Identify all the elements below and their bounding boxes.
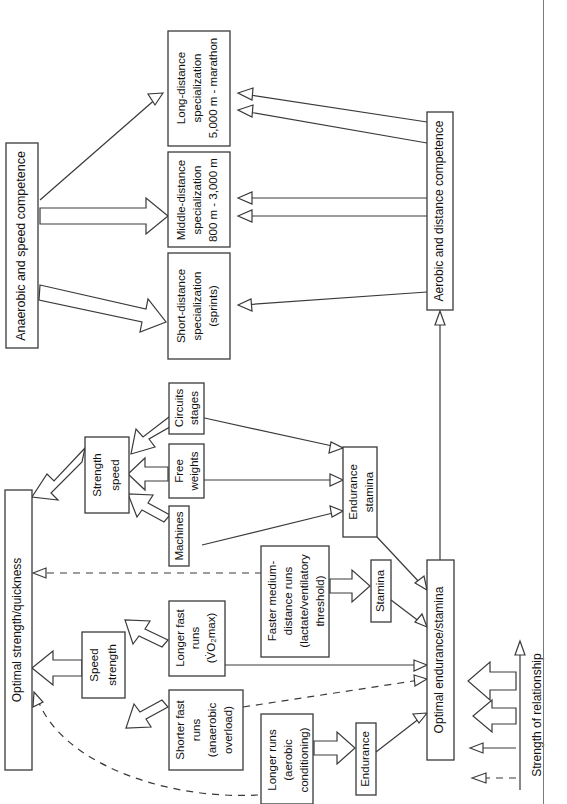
speed-strength-line1: Speed	[88, 648, 100, 681]
edge-longer-runs-to-endurance	[314, 732, 355, 764]
edge-anaerobic-to-middle-distance	[40, 198, 168, 234]
short-distance-line3: (sprints)	[207, 285, 219, 327]
node-free-weights[interactable]: Free weights	[169, 444, 204, 498]
machines-label: Machines	[173, 511, 185, 560]
legend-item-very-strong	[468, 662, 516, 700]
node-machines[interactable]: Machines	[169, 506, 189, 566]
edge-machines-to-endurance-stamina	[202, 506, 343, 545]
circuits-line2: stages	[188, 391, 200, 425]
legend-item-strong	[473, 700, 516, 732]
node-aerobic-distance-competence-label: Aerobic and distance competence	[432, 120, 446, 301]
middle-distance-line2: specialization	[191, 165, 203, 234]
node-optimal-endurance-stamina-label: Optimal endurance/stamina	[432, 586, 446, 733]
edge-shorter-fast-runs-to-optimal-endurance-dashed	[243, 675, 427, 707]
edge-free-weights-to-endurance-stamina	[202, 474, 343, 486]
faster-medium-line3: (lactate/ventilatory	[298, 554, 310, 648]
diagram-canvas: Anaerobic and speed competence Aerobic a…	[0, 0, 567, 804]
shorter-fast-runs-line3: (anaerobic	[206, 703, 218, 758]
shorter-fast-runs-line2: runs	[190, 719, 202, 742]
legend-item-moderate	[470, 743, 516, 753]
node-stamina[interactable]: Stamina	[371, 560, 391, 622]
edge-speed-strength-to-optimal-strength	[32, 651, 82, 685]
faster-medium-line4: threshold)	[314, 575, 326, 626]
node-strength-speed[interactable]: Strength speed	[85, 437, 129, 513]
longer-runs-line3: conditioning)	[298, 727, 310, 792]
middle-distance-line3: 800 m - 3,000 m	[207, 158, 219, 242]
edge-anaerobic-to-long-distance	[40, 93, 163, 200]
legend-axis-arrowhead	[515, 641, 525, 655]
edge-shorter-fast-runs-to-speed-strength	[126, 700, 168, 728]
long-distance-line3: 5,000 m - marathon	[207, 38, 219, 138]
endurance-stamina-line2: stamina	[363, 471, 375, 512]
edge-aerobic-to-middle-distance-a	[238, 192, 427, 204]
node-long-distance-specialization[interactable]: Long-distance specialization 5,000 m - m…	[168, 31, 230, 146]
node-optimal-endurance-stamina[interactable]: Optimal endurance/stamina	[427, 560, 454, 760]
node-longer-runs[interactable]: Longer runs (aerobic conditioning)	[261, 714, 313, 804]
longer-fast-runs-line2: runs	[189, 627, 201, 650]
node-optimal-strength-quickness-label: Optimal strength/quickness	[10, 558, 24, 703]
node-endurance-stamina[interactable]: Endurance stamina	[343, 447, 377, 537]
edge-endurance-to-optimal-endurance	[376, 713, 427, 752]
short-distance-line1: Short-distance	[175, 269, 187, 343]
edge-faster-medium-to-optimal-strength-dashed	[33, 568, 288, 578]
endurance-stamina-line1: Endurance	[347, 464, 359, 520]
long-distance-line2: specialization	[191, 53, 203, 122]
node-anaerobic-speed-competence[interactable]: Anaerobic and speed competence	[6, 143, 38, 348]
legend: Strength of relationship	[468, 641, 544, 790]
node-shorter-fast-runs[interactable]: Shorter fast runs (anaerobic overload)	[169, 690, 243, 770]
stamina-label: Stamina	[374, 569, 386, 612]
edge-longer-fast-runs-to-optimal-endurance	[225, 660, 427, 671]
node-longer-fast-runs[interactable]: Longer fast runs (V̇O₂max)	[169, 601, 225, 676]
longer-fast-runs-line3: (V̇O₂max)	[205, 613, 217, 664]
endurance-label: Endurance	[359, 731, 371, 787]
edge-longer-fast-runs-to-speed-strength	[125, 620, 168, 647]
edge-optimal-endurance-to-aerobic	[435, 311, 445, 560]
strength-speed-line2: speed	[109, 459, 121, 490]
edge-faster-medium-to-stamina	[330, 570, 370, 602]
diagram-page: Anaerobic and speed competence Aerobic a…	[0, 0, 567, 804]
legend-item-weak	[472, 773, 516, 783]
middle-distance-line1: Middle-distance	[175, 160, 187, 241]
node-short-distance-specialization[interactable]: Short-distance specialization (sprints)	[168, 253, 230, 359]
edge-aerobic-to-short-distance	[238, 292, 427, 311]
node-endurance[interactable]: Endurance	[356, 723, 376, 795]
free-weights-line2: weights	[188, 451, 200, 491]
strength-speed-line1: Strength	[91, 453, 103, 496]
free-weights-line1: Free	[173, 459, 185, 483]
node-optimal-strength-quickness[interactable]: Optimal strength/quickness	[5, 490, 32, 770]
faster-medium-line2: distance runs	[282, 567, 294, 636]
shorter-fast-runs-line1: Shorter fast	[174, 699, 186, 759]
node-middle-distance-specialization[interactable]: Middle-distance specialization 800 m - 3…	[168, 152, 230, 247]
long-distance-line1: Long-distance	[175, 52, 187, 124]
faster-medium-line1: Faster medium-	[266, 561, 278, 642]
shorter-fast-runs-line4: overload)	[222, 706, 234, 754]
edge-strength-speed-to-optimal-strength	[32, 448, 85, 500]
node-circuits-stages[interactable]: Circuits stages	[169, 383, 204, 434]
longer-fast-runs-line1: Longer fast	[174, 608, 186, 666]
node-speed-strength[interactable]: Speed strength	[82, 632, 125, 698]
node-faster-medium-distance-runs[interactable]: Faster medium- distance runs (lactate/ve…	[261, 546, 329, 657]
edge-circuits-to-endurance-stamina	[200, 417, 343, 453]
short-distance-line2: specialization	[191, 271, 203, 340]
edge-aerobic-to-middle-distance-b	[238, 210, 427, 222]
edge-aerobic-to-long-distance-a	[238, 88, 427, 122]
longer-runs-line1: Longer runs	[266, 729, 278, 791]
page-frame-line	[543, 0, 544, 804]
node-aerobic-distance-competence[interactable]: Aerobic and distance competence	[427, 112, 453, 310]
edge-free-weights-to-strength-speed	[128, 458, 168, 490]
edge-machines-to-strength-speed	[128, 494, 170, 522]
edge-stamina-to-optimal-endurance	[391, 600, 427, 627]
speed-strength-line2: strength	[106, 644, 118, 686]
edge-anaerobic-to-short-distance	[39, 285, 166, 332]
node-anaerobic-speed-competence-label: Anaerobic and speed competence	[14, 151, 28, 341]
edge-aerobic-to-long-distance-b	[238, 105, 427, 143]
circuits-line1: Circuits	[173, 389, 185, 428]
longer-runs-line2: (aerobic	[282, 739, 294, 781]
